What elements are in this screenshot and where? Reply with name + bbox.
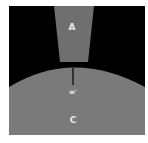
region-a-shape (54, 6, 94, 62)
region-a-label: A (69, 22, 76, 32)
region-c-shape (9, 68, 145, 136)
diagram-figure: A C w' (0, 0, 148, 143)
region-c-label: C (70, 115, 77, 125)
gap-marker-label: w' (69, 88, 77, 95)
